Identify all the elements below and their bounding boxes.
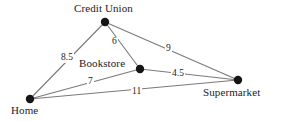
node-label-credit-union: Credit Union [74,3,133,14]
node-credit-union[interactable] [101,18,109,26]
edge-weight-home-credit-union: 8.5 [60,53,74,63]
node-label-bookstore: Bookstore [79,58,125,69]
node-bookstore[interactable] [136,65,144,73]
edge-weight-bookstore-supermarket: 4.5 [171,69,185,79]
node-label-supermarket: Supermarket [203,87,260,98]
node-label-home: Home [11,105,38,116]
graph-diagram: Credit Union Bookstore Home Supermarket … [0,0,284,121]
edge-weight-credit-union-bookstore: 6 [111,37,118,47]
edge-weight-home-supermarket: 11 [131,87,142,97]
edge-weight-home-bookstore: 7 [87,77,94,87]
node-home[interactable] [26,95,34,103]
edge-bookstore-supermarket [140,69,238,80]
graph-canvas [0,0,284,121]
node-supermarket[interactable] [234,76,242,84]
edge-weight-credit-union-supermarket: 9 [165,44,172,54]
